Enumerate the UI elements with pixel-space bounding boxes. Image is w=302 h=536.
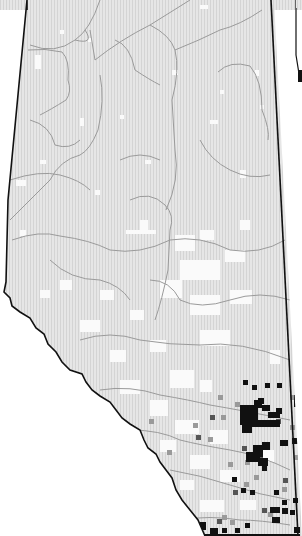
adjacent-marker: [298, 70, 302, 82]
map-canvas: [0, 0, 302, 536]
adjacent-border: [296, 0, 300, 80]
adjacent-strip: [296, 0, 302, 8]
distribution-map: [0, 0, 302, 536]
province-area: [0, 0, 302, 536]
